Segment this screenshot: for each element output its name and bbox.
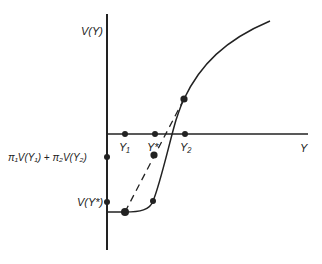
y2-point <box>182 131 188 137</box>
curve-lower-point <box>150 198 156 204</box>
v-ystar-label: V(Y*) <box>77 196 104 208</box>
expected-utility-label: π₁V(Y₁) + π₂V(Y₂) <box>8 152 87 163</box>
v-ystar-axis-point <box>104 199 110 205</box>
y2-label: Y₂ <box>180 141 192 153</box>
y1-point <box>122 131 128 137</box>
utility-curve <box>107 21 270 212</box>
v-y2-point <box>180 95 187 102</box>
y-axis-label: V(Y) <box>81 25 103 37</box>
x-axis-label: Y <box>300 142 308 154</box>
y1-label: Y₁ <box>119 141 130 153</box>
v-y1-point <box>121 208 129 216</box>
ystar-point <box>152 131 158 137</box>
ystar-label: Y* <box>147 141 159 153</box>
expected-utility-axis-point <box>104 154 110 160</box>
utility-diagram: V(Y) Y Y₁ Y* Y₂ π₁V(Y₁) + π₂V(Y₂) V(Y*) <box>0 0 322 264</box>
